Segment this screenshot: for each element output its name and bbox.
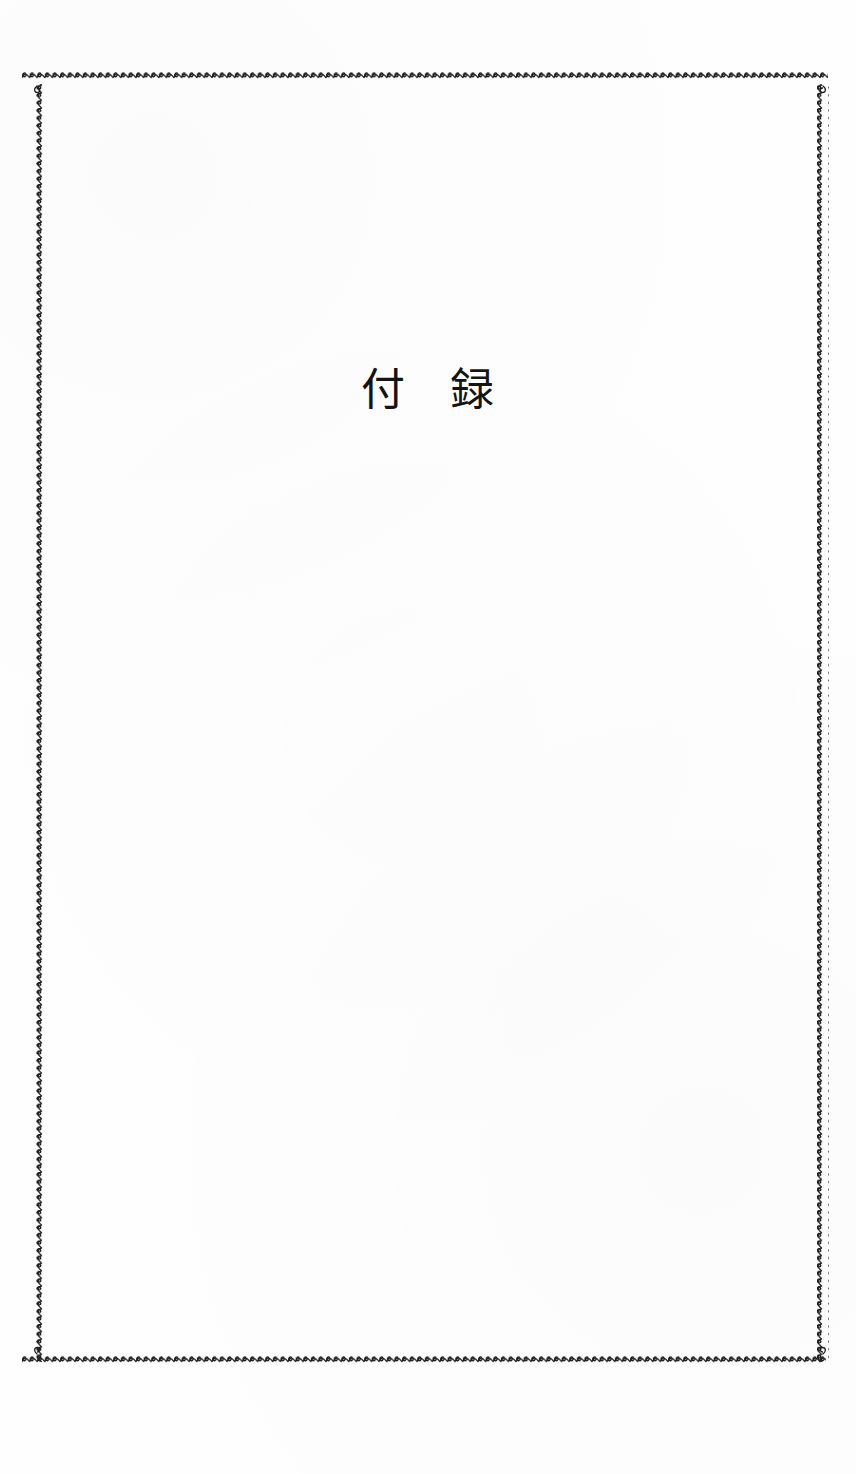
page-title: 付 録 <box>0 368 856 412</box>
border-top-rail <box>22 71 828 83</box>
border-bottom-rail <box>22 1356 826 1368</box>
page-body-blank-area <box>40 450 820 1350</box>
border-corner-top-right <box>820 86 825 93</box>
border-corner-bottom-left <box>35 1348 40 1355</box>
page-title-text: 付 録 <box>361 368 496 412</box>
book-page: 付 録 <box>0 0 856 1474</box>
border-corner-top-left <box>35 86 40 93</box>
border-corner-bottom-right <box>820 1348 825 1355</box>
